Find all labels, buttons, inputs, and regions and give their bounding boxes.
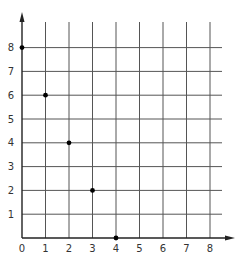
y-tick-label: 7 [8,66,14,77]
x-tick-labels: 012345678 [19,243,213,254]
y-tick-label: 3 [8,161,14,172]
x-tick-label: 4 [113,243,119,254]
x-tick-label: 3 [89,243,95,254]
data-point [43,93,48,98]
axes [20,12,236,241]
y-tick-label: 6 [8,90,14,101]
x-tick-label: 5 [136,243,142,254]
y-axis-arrow-icon [20,12,25,22]
y-tick-labels: 12345678 [8,42,14,220]
y-tick-label: 8 [8,42,14,53]
x-axis-arrow-icon [225,236,235,241]
x-tick-label: 8 [207,243,213,254]
scatter-chart: 012345678 12345678 [0,0,243,262]
data-point [114,236,119,241]
y-tick-label: 5 [8,114,14,125]
x-tick-label: 2 [66,243,72,254]
x-tick-label: 1 [42,243,48,254]
y-tick-label: 2 [8,185,14,196]
x-tick-label: 0 [19,243,25,254]
grid-lines [22,22,222,238]
data-point [90,188,95,193]
data-point [67,140,72,145]
x-tick-label: 6 [160,243,166,254]
y-tick-label: 1 [8,209,14,220]
data-point [20,45,25,50]
y-tick-label: 4 [8,137,14,148]
x-tick-label: 7 [183,243,189,254]
